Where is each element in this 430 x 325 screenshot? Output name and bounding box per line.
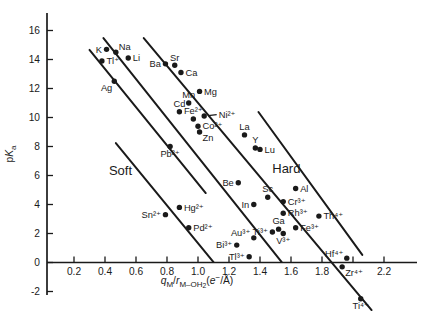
point-la <box>242 132 247 137</box>
y-tick-label-6: 6 <box>34 170 40 181</box>
point-cr3plus <box>281 199 286 204</box>
point-label-tlplus: Tl⁺ <box>106 56 119 66</box>
point-label-ca: Ca <box>185 68 198 78</box>
point-label-pd2plus: Pd²⁺ <box>193 223 212 233</box>
point-cd <box>177 109 182 114</box>
point-label-ba: Ba <box>150 59 162 69</box>
pka-vs-charge-radius-scatter-figure: 0.20.40.60.81.01.21.41.61.82.2-202468101… <box>0 0 430 325</box>
x-tick-label-2.2: 2.2 <box>377 266 391 277</box>
y-tick-label-12: 12 <box>29 83 41 94</box>
point-ag <box>112 79 117 84</box>
y-tick-label-16: 16 <box>29 25 41 36</box>
point-label-ga: Ga <box>272 216 285 226</box>
point-fe3plus <box>293 225 298 230</box>
point-ga <box>276 226 281 231</box>
point-label-pb2plus: Pb²⁺ <box>160 149 179 159</box>
point-label-y: Y <box>252 135 258 145</box>
y-tick-label-14: 14 <box>29 54 41 65</box>
point-k <box>104 47 109 52</box>
point-label-zr4plus: Zr⁴⁺ <box>345 268 363 278</box>
point-be <box>236 180 241 185</box>
point-hg2plus <box>177 205 182 210</box>
point-label-hg2plus: Hg²⁺ <box>184 203 204 213</box>
region-label-soft: Soft <box>109 163 133 178</box>
x-tick-label-0.6: 0.6 <box>129 266 143 277</box>
point-label-th4plus: Th⁴⁺ <box>323 211 343 221</box>
point-sn2plus <box>163 212 168 217</box>
point-label-k: K <box>96 45 103 55</box>
y-axis-title: pKa <box>4 145 18 163</box>
point-na <box>113 50 118 55</box>
point-label-be: Be <box>222 178 233 188</box>
point-bi3plus <box>234 242 239 247</box>
point-in <box>251 202 256 207</box>
point-hf4plus <box>344 255 349 260</box>
point-label-hf4plus: Hf⁴⁺ <box>325 249 343 259</box>
point-sc <box>265 195 270 200</box>
x-tick-label-0.2: 0.2 <box>67 266 81 277</box>
point-label-ni2plus: Ni²⁺ <box>219 110 236 120</box>
point-co2plus <box>195 124 200 129</box>
point-li <box>126 55 131 60</box>
point-label-fe2plus: Fe²⁺ <box>184 106 203 116</box>
point-label-lu: Lu <box>265 145 275 155</box>
point-label-na: Na <box>119 42 132 52</box>
point-label-mg: Mg <box>204 87 217 97</box>
y-tick-label-8: 8 <box>34 141 40 152</box>
leader-line-ni2plus <box>208 115 217 116</box>
point-lu <box>257 147 262 152</box>
x-tick-label-1.6: 1.6 <box>284 266 298 277</box>
point-ti3plus <box>270 229 275 234</box>
point-label-li: Li <box>133 53 140 63</box>
point-label-bi3plus: Bi³⁺ <box>216 240 232 250</box>
point-label-sn2plus: Sn²⁺ <box>142 210 161 220</box>
point-tlplus <box>99 58 104 63</box>
point-label-sc: Sc <box>262 184 273 194</box>
scatter-plot-canvas: 0.20.40.60.81.01.21.41.61.82.2-202468101… <box>0 0 430 325</box>
point-label-zn: Zn <box>203 133 214 143</box>
point-pd2plus <box>186 225 191 230</box>
point-label-au3plus: Au³⁺ <box>231 228 250 238</box>
point-label-ti4plus: Ti⁴⁺ <box>353 301 369 311</box>
point-zn <box>197 129 202 134</box>
point-label-ti3plus: Ti³⁺ <box>252 227 267 237</box>
y-tick-label--2: -2 <box>31 286 40 297</box>
point-y <box>253 145 258 150</box>
point-label-cr3plus: Cr³⁺ <box>288 197 306 207</box>
y-tick-label-4: 4 <box>34 199 40 210</box>
point-sr <box>172 63 177 68</box>
x-tick-label-1: 1.0 <box>191 266 205 277</box>
region-label-hard: Hard <box>272 161 300 176</box>
point-label-rh3plus: Rh³⁺ <box>288 208 308 218</box>
x-tick-label-1.4: 1.4 <box>253 266 267 277</box>
x-tick-label-0.4: 0.4 <box>98 266 112 277</box>
y-tick-label-0: 0 <box>34 257 40 268</box>
x-tick-label-1.8: 1.8 <box>315 266 329 277</box>
point-zr4plus <box>339 264 344 269</box>
point-fe2plus <box>191 116 196 121</box>
point-label-tl3plus: Tl³⁺ <box>229 252 245 262</box>
point-ca <box>178 70 183 75</box>
point-label-sr: Sr <box>170 53 179 63</box>
point-ba <box>163 61 168 66</box>
point-rh3plus <box>281 211 286 216</box>
point-label-la: La <box>239 122 250 132</box>
point-label-ag: Ag <box>101 83 112 93</box>
point-label-fe3plus: Fe³⁺ <box>300 223 319 233</box>
y-tick-label-10: 10 <box>29 112 41 123</box>
point-label-al: Al <box>300 184 308 194</box>
point-label-in: In <box>242 200 250 210</box>
point-th4plus <box>316 213 321 218</box>
point-al <box>293 186 298 191</box>
point-label-v3plus: V³⁺ <box>276 236 290 246</box>
point-label-co2plus: Co²⁺ <box>203 121 223 131</box>
point-tl3plus <box>246 254 251 259</box>
point-mg <box>197 89 202 94</box>
point-mn <box>186 100 191 105</box>
y-tick-label-2: 2 <box>34 228 40 239</box>
